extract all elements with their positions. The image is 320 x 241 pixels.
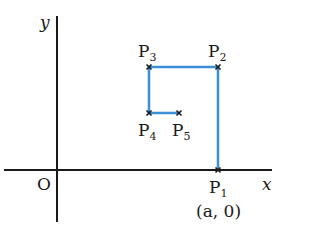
point-markers: [147, 65, 221, 173]
p5-label: P5: [172, 122, 190, 142]
p3-label: P3: [138, 43, 156, 63]
x-axis-label: x: [262, 176, 272, 193]
y-axis-label: y: [40, 14, 50, 31]
p1-label: P1: [209, 179, 227, 199]
p2-label: P2: [208, 43, 226, 63]
p4-label: P4: [138, 122, 156, 142]
origin-label: O: [37, 176, 51, 193]
p1-coordinate: (a, 0): [196, 203, 241, 220]
spiral-path: [149, 67, 218, 170]
